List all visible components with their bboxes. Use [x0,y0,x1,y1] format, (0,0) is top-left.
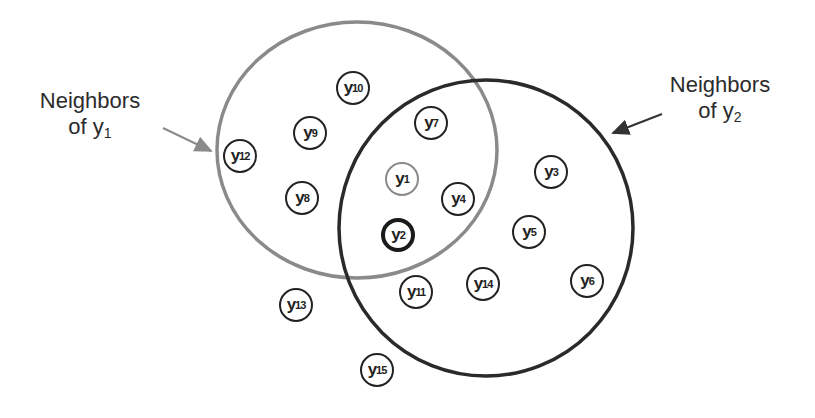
node-subscript: 4 [460,193,465,205]
label-line2: of y1 [30,114,150,146]
label-line1: Neighbors [30,88,150,114]
label-line2: of y2 [655,98,785,130]
node-subscript: 9 [312,127,317,139]
node-subscript: 15 [376,364,386,376]
node-subscript: 7 [433,117,438,129]
node-y15: y15 [360,353,394,387]
node-subscript: 3 [553,166,558,178]
node-var: y [303,123,311,143]
node-y11: y11 [399,275,433,309]
node-subscript: 2 [400,229,405,241]
node-y8: y8 [285,181,319,215]
node-y14: y14 [466,267,500,301]
node-var: y [295,188,303,208]
node-y13: y13 [279,288,313,322]
node-subscript: 14 [482,278,492,290]
node-subscript: 10 [352,82,362,94]
node-y5: y5 [512,215,546,249]
node-subscript: 13 [295,299,305,311]
node-var: y [368,360,376,380]
node-y10: y10 [336,71,370,105]
node-subscript: 1 [404,173,409,185]
node-subscript: 5 [531,226,536,238]
node-y9: y9 [293,116,327,150]
node-y7: y7 [414,106,448,140]
label-neighbors-of-y1: Neighbors of y1 [30,88,150,146]
node-var: y [451,189,459,209]
node-y3: y3 [534,155,568,189]
node-var: y [395,169,403,189]
neighborhood-y1-circle [217,22,497,278]
node-var: y [231,146,239,166]
label-neighbors-of-y2: Neighbors of y2 [655,72,785,130]
node-subscript: 8 [304,192,309,204]
node-subscript: 12 [239,150,249,162]
node-var: y [287,295,295,315]
node-var: y [580,271,588,291]
node-y4: y4 [441,182,475,216]
node-var: y [391,225,399,245]
node-y2: y2 [381,218,415,252]
label-line1: Neighbors [655,72,785,98]
node-var: y [407,282,415,302]
node-y12: y12 [223,139,257,173]
node-subscript: 6 [589,275,594,287]
node-y6: y6 [570,264,604,298]
arrow-left-icon [163,128,211,151]
node-y1: y1 [385,162,419,196]
node-var: y [544,162,552,182]
node-var: y [424,113,432,133]
neighborhood-diagram [0,0,815,418]
node-var: y [344,78,352,98]
node-var: y [474,274,482,294]
node-subscript: 11 [415,286,425,298]
node-var: y [522,222,530,242]
